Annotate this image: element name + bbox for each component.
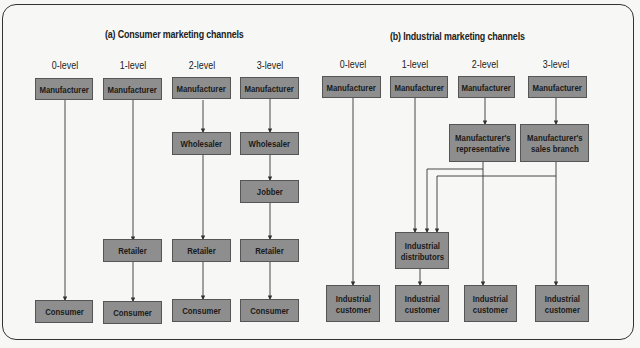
industrial-0-customer: Industrial customer (326, 285, 380, 322)
industrial-2-representative: Manufacturer's representative (449, 124, 516, 162)
consumer-title: (a) Consumer marketing channels (105, 28, 244, 40)
consumer-3-consumer: Consumer (240, 299, 299, 322)
industrial-level-3: 3-level (531, 58, 582, 70)
industrial-distributors: Industrial distributors (395, 232, 449, 269)
industrial-1-customer: Industrial customer (395, 285, 449, 322)
consumer-1-retailer: Retailer (103, 239, 162, 262)
consumer-2-retailer: Retailer (172, 239, 231, 262)
industrial-title: (b) Industrial marketing channels (390, 30, 525, 42)
industrial-0-manufacturer: Manufacturer (322, 76, 381, 98)
industrial-3-sales-branch: Manufacturer's sales branch (520, 124, 589, 162)
consumer-level-1: 1-level (108, 59, 159, 71)
consumer-level-0: 0-level (40, 59, 91, 71)
consumer-3-jobber: Jobber (240, 180, 299, 203)
consumer-2-wholesaler: Wholesaler (172, 132, 231, 155)
consumer-2-manufacturer: Manufacturer (172, 77, 231, 99)
industrial-2-manufacturer: Manufacturer (458, 76, 515, 98)
consumer-1-manufacturer: Manufacturer (103, 78, 162, 100)
consumer-0-consumer: Consumer (35, 300, 93, 323)
consumer-2-consumer: Consumer (172, 299, 231, 322)
consumer-3-retailer: Retailer (240, 239, 299, 262)
industrial-2-customer: Industrial customer (464, 285, 517, 322)
industrial-3-customer: Industrial customer (535, 285, 589, 322)
industrial-level-0: 0-level (328, 58, 379, 70)
consumer-level-2: 2-level (177, 59, 228, 71)
industrial-1-manufacturer: Manufacturer (390, 76, 448, 98)
industrial-level-2: 2-level (460, 58, 511, 70)
consumer-3-manufacturer: Manufacturer (240, 77, 299, 99)
consumer-3-wholesaler: Wholesaler (240, 132, 299, 155)
industrial-3-manufacturer: Manufacturer (528, 76, 587, 98)
industrial-level-1: 1-level (390, 58, 441, 70)
consumer-0-manufacturer: Manufacturer (35, 78, 93, 100)
consumer-level-3: 3-level (245, 59, 296, 71)
consumer-1-consumer: Consumer (103, 301, 162, 324)
